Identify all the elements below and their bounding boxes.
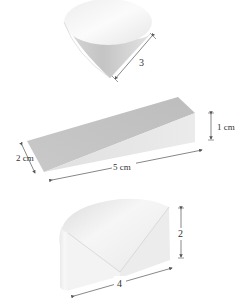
wedge-height-label: 1 cm	[217, 122, 235, 132]
cone-base	[64, 0, 152, 45]
wedge-width-label: 2 cm	[16, 153, 34, 163]
cone-slant-label: 3	[139, 57, 144, 68]
quarter-cylinder-figure: 2 4	[59, 199, 186, 296]
quarter-cylinder-radius-label: 4	[117, 278, 122, 289]
solids-diagram: 3 1 cm 2 cm 5 cm 2	[0, 0, 238, 298]
wedge-figure: 1 cm 2 cm 5 cm	[16, 97, 235, 180]
quarter-cylinder-height-label: 2	[178, 228, 183, 239]
cone-figure: 3	[64, 0, 156, 82]
wedge-length-label: 5 cm	[113, 162, 131, 172]
